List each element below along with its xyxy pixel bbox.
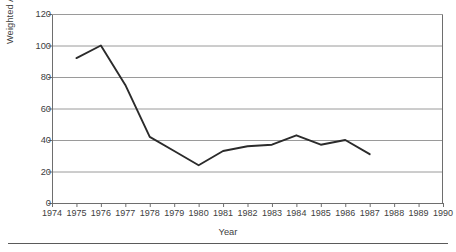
x-axis-title: Year xyxy=(0,227,456,237)
y-tick-label-120: 120 xyxy=(11,9,51,19)
y-tick-label-40: 40 xyxy=(11,135,51,145)
data-line-0 xyxy=(76,46,369,166)
y-tick-label-60: 60 xyxy=(11,104,51,114)
x-tick-label-1990: 1990 xyxy=(426,208,456,218)
chart-figure: Weighted Average Maturity in Days Year 0… xyxy=(0,0,456,252)
footer-divider xyxy=(8,243,448,244)
y-tick-label-80: 80 xyxy=(11,72,51,82)
y-tick-label-0: 0 xyxy=(11,198,51,208)
y-tick-label-20: 20 xyxy=(11,167,51,177)
y-tick-label-100: 100 xyxy=(11,41,51,51)
